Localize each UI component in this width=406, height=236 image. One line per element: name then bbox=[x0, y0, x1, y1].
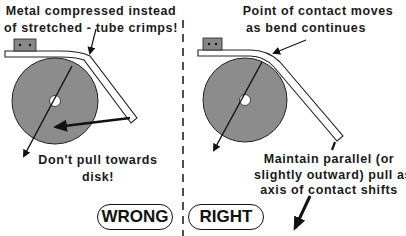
right-clamp bbox=[203, 38, 222, 50]
right-bottom-note: Maintain parallel (or slightly outward) … bbox=[254, 152, 404, 199]
right-badge: RIGHT bbox=[188, 204, 264, 230]
right-callout-arrow bbox=[274, 40, 306, 53]
wrong-bottom-note: Don't pull towards disk! bbox=[28, 152, 168, 186]
wrong-top-note: Metal compressed instead of stretched - … bbox=[2, 3, 180, 37]
right-panel-drawing bbox=[198, 38, 343, 228]
wrong-badge: WRONG bbox=[97, 204, 173, 230]
right-pull-arrow bbox=[295, 196, 310, 228]
wrong-clamp bbox=[14, 39, 36, 51]
right-top-note: Point of contact moves as bend continues bbox=[238, 3, 398, 37]
wrong-panel-drawing bbox=[5, 29, 137, 156]
